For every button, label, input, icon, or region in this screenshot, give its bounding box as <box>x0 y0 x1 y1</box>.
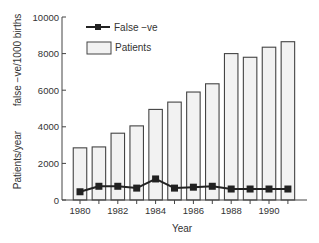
x-tick-label: 1980 <box>69 205 90 216</box>
legend-label-patients: Patients <box>115 42 151 53</box>
bar-1988 <box>224 54 238 200</box>
line-marker-1988 <box>228 186 235 193</box>
y-tick-label: 8000 <box>38 48 59 59</box>
line-marker-1990 <box>266 186 273 193</box>
x-tick-label: 1990 <box>258 205 279 216</box>
line-marker-1989 <box>247 186 254 193</box>
y-axis-label-patients: Patients/year <box>12 130 23 189</box>
line-marker-1983 <box>133 185 140 192</box>
legend-line-marker <box>95 24 101 30</box>
patients-bars <box>73 42 294 200</box>
x-axis: 198019821984198619881990 <box>62 200 307 216</box>
y-axis: 0200040006000800010000 <box>33 12 66 206</box>
y-tick-label: 2000 <box>38 158 59 169</box>
line-marker-1980 <box>77 188 84 195</box>
line-marker-1981 <box>95 183 102 190</box>
y-axis-label-false-negative: false −ve/1000 births <box>12 14 23 107</box>
bar-1989 <box>243 57 257 200</box>
legend: False −vePatients <box>86 22 158 54</box>
y-tick-label: 10000 <box>33 12 59 23</box>
x-tick-label: 1982 <box>107 205 128 216</box>
x-tick-label: 1988 <box>221 205 242 216</box>
line-marker-1986 <box>190 184 197 191</box>
y-tick-label: 6000 <box>38 85 59 96</box>
x-tick-label: 1986 <box>183 205 204 216</box>
bar-1990 <box>262 47 276 200</box>
line-marker-1985 <box>171 185 178 192</box>
chart: 0200040006000800010000 19801982198419861… <box>0 0 319 243</box>
x-tick-label: 1984 <box>145 205 166 216</box>
false-negative-line <box>77 175 292 195</box>
line-marker-1982 <box>114 183 121 190</box>
legend-label-false-negative: False −ve <box>114 22 158 33</box>
legend-bar-swatch <box>87 42 111 54</box>
bar-line-chart: 0200040006000800010000 19801982198419861… <box>0 0 319 243</box>
x-axis-label: Year <box>172 223 193 234</box>
y-tick-label: 4000 <box>38 121 59 132</box>
y-tick-label: 0 <box>54 195 59 206</box>
bar-1987 <box>206 84 220 200</box>
line-marker-1984 <box>152 175 159 182</box>
bar-1981 <box>92 147 106 200</box>
bar-1991 <box>281 42 295 200</box>
line-marker-1991 <box>284 186 291 193</box>
bar-1982 <box>111 133 125 200</box>
line-marker-1987 <box>209 183 216 190</box>
bar-1984 <box>149 109 163 200</box>
